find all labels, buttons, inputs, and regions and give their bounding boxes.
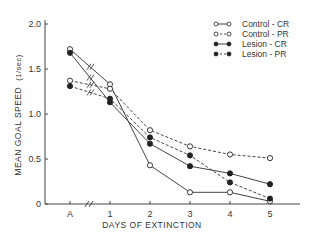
legend-item: Lesion - CR xyxy=(214,39,287,49)
filled-circle-marker-icon xyxy=(267,196,272,201)
x-tick-label: 2 xyxy=(147,209,152,219)
filled-circle-marker-icon xyxy=(227,52,231,56)
open-circle-marker-icon xyxy=(107,86,112,91)
series-group xyxy=(67,47,272,204)
series-lesion-cr xyxy=(67,50,272,187)
series-line xyxy=(70,49,270,201)
filled-circle-marker-icon xyxy=(187,153,192,158)
open-circle-marker-icon xyxy=(214,22,218,26)
filled-circle-marker-icon xyxy=(147,135,152,140)
y-tick-label: 0.5 xyxy=(28,154,41,164)
open-circle-marker-icon xyxy=(147,128,152,133)
open-circle-marker-icon xyxy=(147,163,152,168)
legend-item: Lesion - PR xyxy=(214,49,286,59)
open-circle-marker-icon xyxy=(187,190,192,195)
filled-circle-marker-icon xyxy=(214,52,218,56)
filled-circle-marker-icon xyxy=(267,182,272,187)
y-tick-label: 0 xyxy=(36,199,41,209)
series-line xyxy=(70,86,270,199)
open-circle-marker-icon xyxy=(267,156,272,161)
x-tick-label: 4 xyxy=(227,209,232,219)
legend-item: Control - CR xyxy=(214,19,289,29)
open-circle-marker-icon xyxy=(67,78,72,83)
filled-circle-marker-icon xyxy=(227,171,232,176)
open-circle-marker-icon xyxy=(214,32,218,36)
filled-circle-marker-icon xyxy=(147,141,152,146)
filled-circle-marker-icon xyxy=(227,42,231,46)
x-tick-label: 5 xyxy=(267,209,272,219)
filled-circle-marker-icon xyxy=(227,180,232,185)
y-tick-label: 1.0 xyxy=(28,109,41,119)
legend-label: Lesion - PR xyxy=(242,49,286,59)
legend-label: Control - CR xyxy=(242,19,289,29)
series-lesion-pr xyxy=(67,84,272,202)
series-line xyxy=(70,53,270,184)
x-axis-title: DAYS OF EXTINCTION xyxy=(102,220,202,230)
line-chart: 00.51.01.52.0A12345DAYS OF EXTINCTIONMEA… xyxy=(0,0,323,232)
filled-circle-marker-icon xyxy=(107,96,112,101)
filled-circle-marker-icon xyxy=(67,50,72,55)
y-tick-label: 2.0 xyxy=(28,19,41,29)
legend-label: Control - PR xyxy=(242,29,289,39)
legend-label: Lesion - CR xyxy=(242,39,287,49)
filled-circle-marker-icon xyxy=(67,84,72,89)
series-control-pr xyxy=(67,78,272,161)
x-tick-label: A xyxy=(67,209,73,219)
open-circle-marker-icon xyxy=(187,144,192,149)
open-circle-marker-icon xyxy=(227,32,231,36)
x-tick-label: 3 xyxy=(187,209,192,219)
y-tick-label: 1.5 xyxy=(28,64,41,74)
y-axis-title: MEAN GOAL SPEED(1/sec) xyxy=(13,54,23,175)
open-circle-marker-icon xyxy=(227,152,232,157)
filled-circle-marker-icon xyxy=(187,164,192,169)
legend-item: Control - PR xyxy=(214,29,289,39)
series-line xyxy=(70,81,270,158)
x-tick-label: 1 xyxy=(107,209,112,219)
series-control-cr xyxy=(67,47,272,204)
open-circle-marker-icon xyxy=(227,190,232,195)
legend: Control - CRControl - PRLesion - CRLesio… xyxy=(214,19,289,59)
filled-circle-marker-icon xyxy=(214,42,218,46)
open-circle-marker-icon xyxy=(227,22,231,26)
